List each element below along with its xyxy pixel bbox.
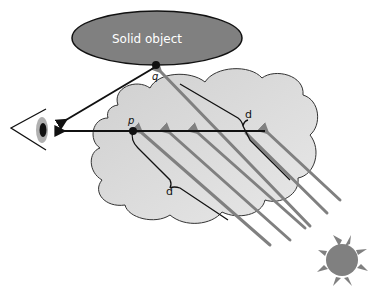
distance-label-upper: d bbox=[245, 108, 252, 121]
diagram-canvas: Solid object q p d d bbox=[0, 0, 377, 298]
distance-label-lower: d bbox=[166, 185, 173, 198]
point-q bbox=[152, 61, 160, 69]
solid-object-label: Solid object bbox=[112, 32, 182, 46]
eye-icon bbox=[11, 109, 48, 150]
point-p bbox=[129, 127, 137, 135]
solid-object: Solid object bbox=[72, 11, 242, 65]
sun-icon bbox=[317, 235, 368, 286]
point-p-label: p bbox=[127, 115, 134, 126]
point-q-label: q bbox=[152, 71, 158, 82]
